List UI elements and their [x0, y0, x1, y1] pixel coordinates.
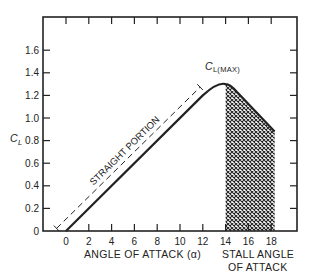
x-tick-label: 16: [243, 236, 255, 247]
y-tick-label: 0.2: [25, 203, 39, 214]
x-axis-title: ANGLE OF ATTACK (α): [84, 248, 201, 260]
x-tick-label: 0: [63, 236, 69, 247]
y-axis-subscript: L: [18, 138, 22, 147]
x-tick-label: 4: [109, 236, 115, 247]
y-tick-label: 1.2: [25, 90, 39, 101]
clmax-label: CL(MAX): [205, 60, 240, 74]
stall-angle-label-line2: OF ATTACK: [228, 261, 287, 273]
y-tick-label: 1.6: [25, 45, 39, 56]
y-axis-symbol: C: [10, 132, 18, 144]
y-tick-label: 0.8: [25, 135, 39, 146]
y-tick-label: 0.4: [25, 180, 39, 191]
x-tick-label: 12: [197, 236, 209, 247]
x-tick-label: 18: [266, 236, 278, 247]
y-tick-label: 1.0: [25, 113, 39, 124]
x-tick-label: 2: [86, 236, 92, 247]
stall-angle-label-line1: STALL ANGLE: [222, 248, 294, 260]
x-tick-label: 10: [174, 236, 186, 247]
y-axis-title: CL: [10, 132, 22, 147]
straight-portion-label: STRAIGHT PORTION: [87, 114, 162, 188]
clmax-subscript: L(MAX): [213, 65, 240, 74]
straight-portion-dimension-line: [54, 84, 203, 231]
x-tick-label: 14: [220, 236, 232, 247]
y-tick-label: 0.6: [25, 158, 39, 169]
clmax-symbol: C: [205, 60, 213, 72]
y-tick-label: 0: [33, 226, 39, 237]
y-tick-label: 1.4: [25, 67, 39, 78]
x-tick-label: 6: [132, 236, 138, 247]
x-tick-label: 8: [154, 236, 160, 247]
lift-coefficient-chart: 024681012141618 00.20.40.60.81.01.21.41.…: [0, 0, 313, 280]
